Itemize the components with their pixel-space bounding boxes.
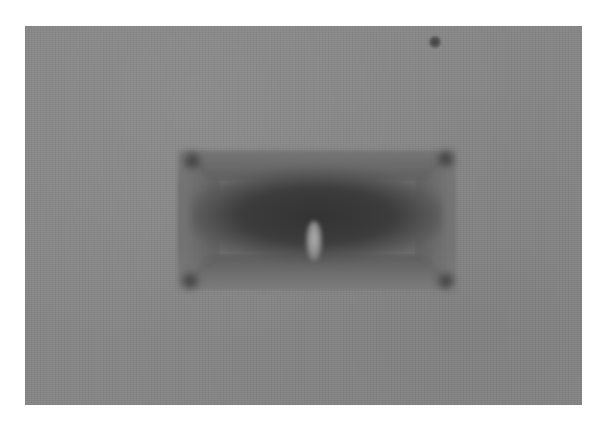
- indentation-corner-bottom-left: [183, 274, 197, 288]
- indentation-corner-bottom-right: [439, 274, 453, 288]
- micrograph-photo: [25, 26, 582, 405]
- indentation-corner-top-left: [185, 154, 199, 168]
- indentation-corner-top-right: [439, 152, 453, 166]
- dust-speck: [429, 36, 441, 48]
- central-highlight: [306, 221, 322, 261]
